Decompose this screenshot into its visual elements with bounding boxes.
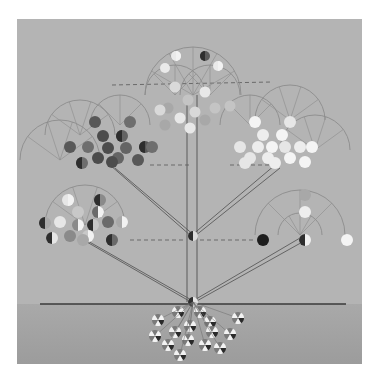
circle (175, 113, 186, 124)
circle (146, 141, 158, 153)
circle (249, 116, 261, 128)
circle (155, 105, 166, 116)
circle (276, 129, 288, 141)
circle (200, 115, 211, 126)
artwork-scene (17, 19, 362, 364)
ground (17, 304, 362, 364)
circle (234, 141, 246, 153)
circle (252, 141, 264, 153)
circle (284, 116, 296, 128)
artwork-canvas (0, 0, 377, 382)
circle (92, 152, 104, 164)
circle (124, 116, 136, 128)
circle (64, 230, 76, 242)
circle (97, 130, 109, 142)
circle (294, 141, 306, 153)
circle (190, 107, 201, 118)
circle (284, 152, 296, 164)
circle (341, 234, 353, 246)
circle (299, 206, 311, 218)
circle (54, 216, 66, 228)
circle (257, 234, 269, 246)
circle (77, 234, 89, 246)
circle (185, 123, 196, 134)
circle (257, 129, 269, 141)
circle (306, 141, 318, 153)
circle (160, 63, 170, 73)
circle (299, 156, 311, 168)
circle (89, 116, 101, 128)
circle (82, 141, 94, 153)
circle (210, 103, 221, 114)
circle (64, 141, 76, 153)
circle (120, 142, 132, 154)
circle (102, 142, 114, 154)
circle (299, 189, 311, 201)
circle (72, 206, 84, 218)
circle (279, 141, 291, 153)
circle (200, 87, 211, 98)
circle (239, 157, 251, 169)
circle (269, 157, 281, 169)
circle (106, 156, 118, 168)
circle (160, 120, 171, 131)
circle (183, 95, 194, 106)
circle (170, 82, 181, 93)
circle (225, 101, 236, 112)
circle (102, 216, 114, 228)
circle (132, 154, 144, 166)
circle (266, 141, 278, 153)
